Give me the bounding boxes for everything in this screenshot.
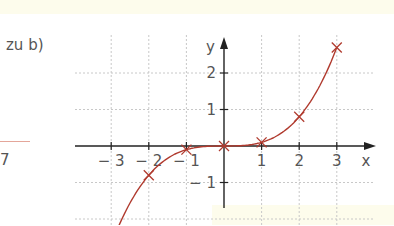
- function-graph: − 3− 2− 112321− 1xy: [0, 0, 394, 225]
- function-curve: [117, 48, 337, 226]
- svg-text:− 3: − 3: [98, 152, 125, 170]
- svg-text:2: 2: [206, 64, 216, 82]
- svg-text:3: 3: [332, 152, 342, 170]
- svg-text:1: 1: [206, 101, 216, 119]
- svg-text:− 1: − 1: [189, 174, 216, 192]
- svg-text:x: x: [362, 152, 371, 170]
- tick-labels: − 3− 2− 112321− 1xy: [98, 38, 371, 192]
- svg-text:1: 1: [257, 152, 267, 170]
- svg-text:2: 2: [294, 152, 304, 170]
- svg-text:− 1: − 1: [173, 152, 200, 170]
- svg-text:y: y: [206, 38, 215, 56]
- svg-text:− 2: − 2: [135, 152, 162, 170]
